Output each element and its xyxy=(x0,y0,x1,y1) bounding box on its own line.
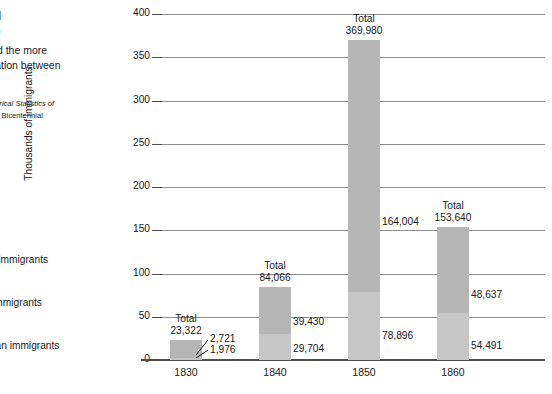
y-axis-label: Thousands of immigrants xyxy=(23,44,34,204)
y-tick-label-150: 150 xyxy=(120,223,150,234)
segment-value-1860-irish: 48,637 xyxy=(471,289,502,300)
bar-segment-1840-irish[interactable] xyxy=(259,300,291,334)
bar-segment-1860-other[interactable] xyxy=(437,227,469,271)
bar-1860[interactable] xyxy=(437,227,469,360)
segment-value-1840-german: 29,704 xyxy=(293,343,324,354)
y-tick-label-200: 200 xyxy=(120,180,150,191)
bar-segment-1860-irish[interactable] xyxy=(437,271,469,313)
figure-root: l Total –1860 ants led the more mmigrati… xyxy=(0,0,552,394)
bar-total-caption-1860: Total xyxy=(408,200,498,212)
bar-total-1850: Total369,980 xyxy=(319,13,409,37)
y-tick-400: 400 xyxy=(118,7,150,19)
y-tick-mark-300 xyxy=(152,101,162,102)
y-tick-100: 100 xyxy=(118,267,150,279)
y-tick-mark-400 xyxy=(152,14,162,15)
y-tick-200: 200 xyxy=(118,180,150,192)
y-tick-mark-200 xyxy=(152,187,162,188)
segment-value-1830-german: 1,976 xyxy=(210,344,236,355)
bar-1850[interactable] xyxy=(348,40,380,360)
y-tick-mark-100 xyxy=(152,274,162,275)
bar-segment-1850-irish[interactable] xyxy=(348,150,380,292)
y-tick-mark-150 xyxy=(152,230,162,231)
y-tick-150: 150 xyxy=(118,223,150,235)
y-tick-label-300: 300 xyxy=(120,94,150,105)
segment-value-1850-german: 78,896 xyxy=(382,330,413,341)
bar-total-1840: Total84,066 xyxy=(230,260,320,284)
y-tick-label-400: 400 xyxy=(120,7,150,18)
bar-total-value-1840: 84,066 xyxy=(230,272,320,284)
bar-1840[interactable] xyxy=(259,287,291,360)
bar-total-value-1860: 153,640 xyxy=(408,212,498,224)
bar-segment-1840-german[interactable] xyxy=(259,334,291,360)
bar-segment-1860-german[interactable] xyxy=(437,313,469,360)
bar-segment-1830-other[interactable] xyxy=(170,340,202,356)
bar-total-value-1850: 369,980 xyxy=(319,25,409,37)
bar-segment-1830-irish[interactable] xyxy=(170,356,202,358)
bar-1830[interactable] xyxy=(170,340,202,360)
segment-value-1840-irish: 39,430 xyxy=(293,316,324,327)
x-tick-label-1860: 1860 xyxy=(423,366,483,378)
bar-total-caption-1830: Total xyxy=(141,313,231,325)
bar-segment-1850-other[interactable] xyxy=(348,40,380,150)
bar-segment-1830-german[interactable] xyxy=(170,358,202,360)
y-tick-300: 300 xyxy=(118,94,150,106)
bar-total-caption-1840: Total xyxy=(230,260,320,272)
y-tick-label-100: 100 xyxy=(120,267,150,278)
bar-total-caption-1850: Total xyxy=(319,13,409,25)
x-tick-label-1850: 1850 xyxy=(334,366,394,378)
x-tick-label-1840: 1840 xyxy=(245,366,305,378)
bar-total-1860: Total153,640 xyxy=(408,200,498,224)
segment-value-1860-german: 54,491 xyxy=(471,340,502,351)
y-tick-250: 250 xyxy=(118,137,150,149)
segment-value-1850-irish: 164,004 xyxy=(382,216,419,227)
segment-value-1830-irish: 2,721 xyxy=(210,333,236,344)
bar-segment-1840-other[interactable] xyxy=(259,287,291,300)
y-tick-label-350: 350 xyxy=(120,50,150,61)
y-tick-label-250: 250 xyxy=(120,137,150,148)
y-tick-mark-350 xyxy=(152,57,162,58)
bar-segment-1850-german[interactable] xyxy=(348,292,380,360)
x-tick-label-1830: 1830 xyxy=(156,366,216,378)
y-tick-mark-250 xyxy=(152,144,162,145)
y-tick-350: 350 xyxy=(118,50,150,62)
plot-area: Thousands of immigrants 0501001502002503… xyxy=(0,0,552,394)
